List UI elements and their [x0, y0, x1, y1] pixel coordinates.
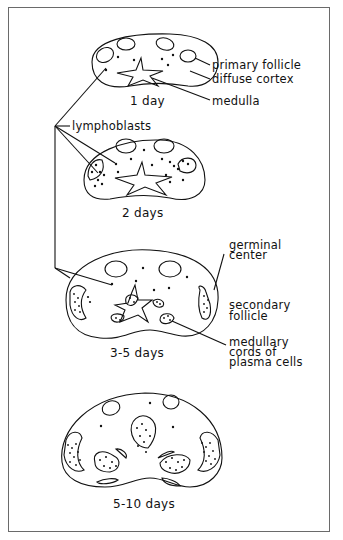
label-lymphoblasts: lymphoblasts: [72, 121, 151, 132]
caption-stage-2: 2 days: [122, 206, 164, 220]
caption-stage-3: 3-5 days: [110, 346, 164, 360]
label-medulla: medulla: [212, 96, 260, 107]
lymphoblast-pointers: [55, 68, 115, 285]
node-stage-4: [62, 393, 222, 487]
label-secondary-follicle-line2: follicle: [229, 311, 268, 322]
label-germinal-center-line2: center: [229, 250, 267, 261]
node-stage-3: [66, 250, 226, 345]
node-stage-2: [84, 139, 205, 199]
label-medullary-cords-line3: plasma cells: [229, 357, 303, 368]
caption-stage-1: 1 day: [130, 94, 165, 108]
caption-stage-4: 5-10 days: [113, 497, 175, 511]
label-diffuse-cortex: diffuse cortex: [212, 74, 294, 85]
label-primary-follicle: primary follicle: [212, 60, 301, 71]
